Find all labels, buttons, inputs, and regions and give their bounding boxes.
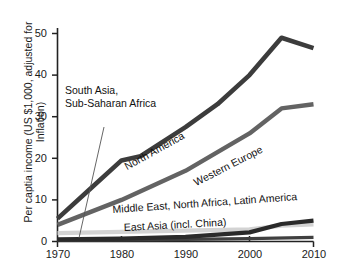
x-tick-label-2000: 2000 [230,248,270,260]
x-tick-label-1990: 1990 [166,248,206,260]
x-tick-label-1980: 1980 [102,248,142,260]
annotation-south-asia-line1: South Asia, [65,84,118,97]
chart-container: 50 40 30 20 10 0 1970 1980 1990 2000 201… [0,0,340,270]
annotation-south-asia-line2: Sub-Saharan Africa [65,97,156,110]
y-axis-ticks [52,34,58,242]
y-axis-title: Per captia income (US $1,000, adjusted f… [22,7,46,237]
x-tick-label-1970: 1970 [38,248,78,260]
x-tick-label-2010: 2010 [294,248,334,260]
